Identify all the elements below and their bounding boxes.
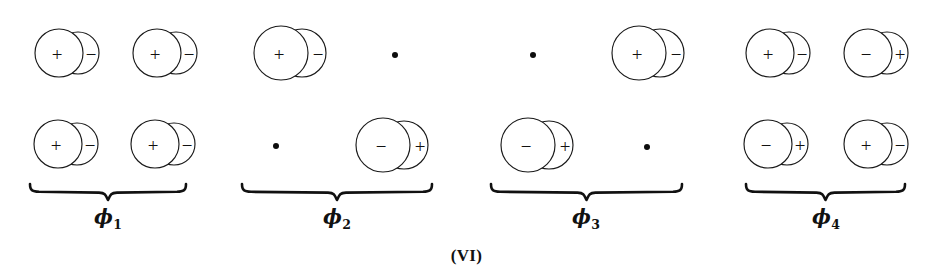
orbital-sign-right: + [895,45,906,64]
orbital-sign-right: − [895,136,906,155]
orbital-sign-left: − [861,45,872,64]
orbital-sign-left: + [861,136,872,155]
group-label: ϕ4 [812,205,840,232]
orbital-diagram-figure: +−+−+−+−ϕ1+−−+ϕ2+−−+ϕ3+−−+−++−ϕ4 (VI) [0,0,933,280]
orbital-sign-left: − [761,136,772,155]
group-label-symbol: ϕ [812,205,831,229]
orbital-sign-left: + [763,45,774,64]
group-brace [744,182,907,204]
figure-caption: (VI) [0,246,933,266]
group-label-subscript: 4 [831,217,840,232]
orbital-sign-right: − [797,45,808,64]
orbital-sign-right: + [795,136,806,155]
orbital-group: +−−+−++−ϕ4 [0,0,933,280]
